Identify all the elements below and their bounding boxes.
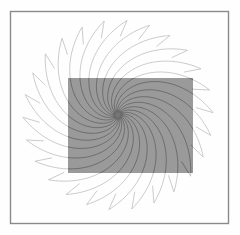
figure-canvas (0, 0, 240, 235)
spiral-figure-svg (0, 0, 240, 235)
vortex-center-blob (113, 110, 123, 120)
